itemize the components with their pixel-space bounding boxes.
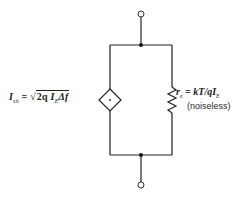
shot-noise-current-label: Ish = √2q IEΔf (9, 91, 69, 104)
current-source-dot (109, 99, 111, 101)
resistance-expr-sub: E (216, 93, 220, 99)
radical-sign: √ (30, 91, 36, 102)
current-sub: sh (13, 98, 19, 104)
expr-pre: 2q (37, 91, 48, 102)
resistance-expr: kT/qI (193, 86, 216, 97)
bottom-terminal-icon (138, 182, 144, 188)
noiseless-note: (noiseless) (187, 101, 231, 111)
expr-post: Δf (59, 91, 69, 102)
resistor-zigzag-icon (168, 87, 176, 113)
equals-sign-2: = (185, 86, 191, 97)
equals-sign: = (22, 91, 28, 102)
resistance-sub: e (180, 93, 183, 99)
top-terminal-icon (138, 11, 144, 17)
resistance-label: re = kT/qIE (176, 86, 220, 99)
